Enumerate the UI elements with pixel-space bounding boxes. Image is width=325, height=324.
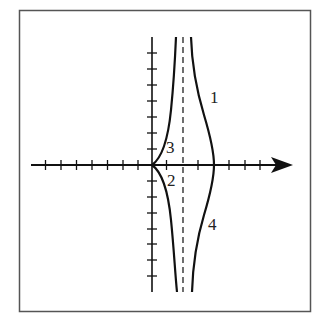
curve-label-3: 3 <box>166 138 175 157</box>
x-axis <box>31 157 293 173</box>
curve-label-2: 2 <box>167 171 176 190</box>
curve-label-1: 1 <box>210 88 219 107</box>
graph-figure: 1 3 2 4 <box>0 0 325 324</box>
curve-label-4: 4 <box>208 215 217 234</box>
figure-frame <box>20 11 311 312</box>
